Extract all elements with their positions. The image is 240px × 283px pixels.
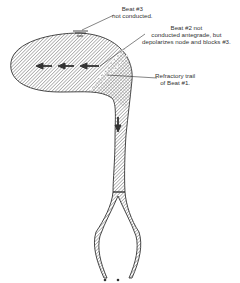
bundle-branches-shape xyxy=(94,192,140,278)
node-body-shape xyxy=(11,33,132,192)
label-line: not conducted. xyxy=(112,12,153,19)
label-line: Beat #2 not xyxy=(142,24,231,31)
label-refractory: Refractory trail of Beat #1. xyxy=(155,72,195,86)
label-line: Refractory trail xyxy=(155,72,195,79)
label-line: of Beat #1. xyxy=(155,79,195,86)
label-line: conducted antegrade, but xyxy=(142,31,231,38)
label-beat3: Beat #3 not conducted. xyxy=(112,5,153,19)
label-line: Beat #3 xyxy=(112,5,153,12)
label-beat2: Beat #2 not conducted antegrade, but dep… xyxy=(142,24,231,45)
label-line: depolarizes node and blocks #3. xyxy=(142,38,231,45)
